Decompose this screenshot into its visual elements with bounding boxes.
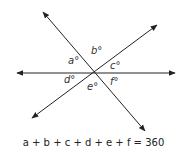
- angle-a-label: a°: [68, 56, 79, 66]
- angle-c-label: c°: [110, 61, 121, 71]
- lines-svg: [0, 0, 187, 155]
- angle-f-label: f°: [110, 77, 119, 87]
- sum-equation: a + b + c + d + e + f = 360: [0, 137, 187, 148]
- angle-b-label: b°: [91, 46, 102, 56]
- angle-diagram: a° b° c° d° e° f° a + b + c + d + e + f …: [0, 0, 187, 155]
- angle-d-label: d°: [64, 75, 75, 85]
- angle-e-label: e°: [87, 82, 98, 92]
- ascending-line: [32, 25, 157, 118]
